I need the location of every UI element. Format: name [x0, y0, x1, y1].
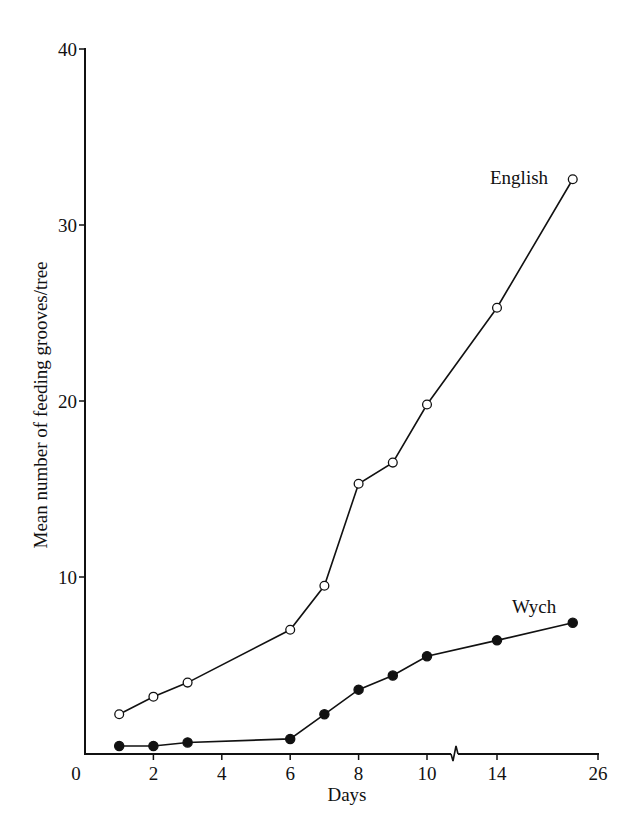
open-circle-marker	[286, 625, 295, 634]
filled-circle-marker	[492, 636, 501, 645]
open-circle-marker	[183, 678, 192, 687]
filled-circle-marker	[354, 685, 363, 694]
x-tick-label: 8	[354, 763, 364, 784]
open-circle-marker	[423, 400, 432, 409]
series-label-wych: Wych	[512, 596, 557, 617]
open-circle-marker	[115, 710, 124, 719]
y-ticks: 10203040	[58, 39, 85, 588]
x-tick-label: 10	[418, 763, 437, 784]
open-circle-marker	[149, 692, 158, 701]
filled-circle-marker	[422, 652, 431, 661]
x-ticks: 02468101426	[71, 754, 607, 784]
x-axis-break-icon	[451, 746, 458, 761]
filled-circle-marker	[183, 738, 192, 747]
y-tick-label: 40	[58, 39, 77, 60]
filled-circle-marker	[149, 741, 158, 750]
filled-circle-marker	[388, 671, 397, 680]
x-tick-label: 26	[589, 763, 608, 784]
open-circle-marker	[388, 458, 397, 467]
series-label-english: English	[490, 167, 549, 188]
series-line	[119, 179, 573, 714]
x-tick-label: 2	[149, 763, 159, 784]
x-tick-label: 4	[217, 763, 227, 784]
y-tick-label: 20	[58, 391, 77, 412]
x-tick-label: 0	[71, 763, 81, 784]
open-circle-marker	[320, 581, 329, 590]
filled-circle-marker	[320, 710, 329, 719]
line-chart: 10203040 02468101426 English Wych Days M…	[0, 0, 629, 839]
open-circle-marker	[493, 303, 502, 312]
y-tick-label: 30	[58, 215, 77, 236]
open-circle-marker	[568, 175, 577, 184]
x-tick-label: 14	[488, 763, 508, 784]
y-tick-label: 10	[58, 567, 77, 588]
filled-circle-marker	[568, 618, 577, 627]
filled-circle-marker	[115, 741, 124, 750]
y-axis-title: Mean number of feeding grooves/tree	[30, 261, 51, 548]
x-axis-title: Days	[327, 784, 366, 805]
axes: 10203040 02468101426	[58, 39, 608, 784]
x-tick-label: 6	[285, 763, 295, 784]
open-circle-marker	[354, 479, 363, 488]
filled-circle-marker	[286, 734, 295, 743]
